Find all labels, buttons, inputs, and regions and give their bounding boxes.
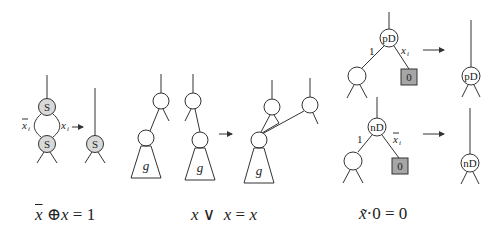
node [185,93,201,109]
s-node-result-label: S [92,138,98,150]
s-node-bottom-label: S [44,138,50,150]
node [138,130,154,146]
formula-xor: x ⊕x = 1 [35,204,95,225]
child-edge [473,172,479,184]
sub-i: i [399,139,401,147]
label-xi: x [60,119,66,131]
child-edge [474,85,480,97]
formula-and: x̃·0 = 0 [359,204,407,224]
child-edge [356,170,363,183]
nd-node-label: nD [370,121,384,133]
subgraph-label: g [143,158,150,173]
node [251,132,267,148]
node [264,99,280,115]
formula-x: x [61,205,69,224]
sub-i: i [28,125,30,133]
edge [150,109,159,131]
edge [185,109,191,121]
child-edge [98,152,105,163]
edge [274,115,279,123]
child-edge [343,170,350,183]
panel-merge: g g g [131,74,318,183]
edge-negated-xi [34,114,41,137]
terminal-zero-label: 0 [397,160,403,172]
node [302,97,318,113]
edge-label-xi: x [400,44,406,56]
child-edge [462,85,468,97]
panel-nd: nD 1 x i 0 nD [343,97,479,184]
sub-i: i [67,125,69,133]
nd-node-result-label: nD [463,157,477,169]
formula-rhs: 0 = 0 [372,204,407,223]
formula-op: ∨ [203,205,215,224]
formula-x: x [191,205,199,224]
edge-xi [53,114,60,137]
node [348,67,366,85]
edge-label-1: 1 [369,45,375,57]
edge [163,109,169,121]
formula-rhs: x [249,205,257,224]
pd-node-label: pD [382,32,396,44]
formula-rhs: = 1 [73,205,95,224]
node [344,152,362,170]
terminal-zero-label: 0 [406,71,412,83]
panel-s-reduction: S S x i x i S [21,75,105,163]
node [192,132,208,148]
child-edge [347,85,354,98]
subgraph-label: g [197,160,204,175]
child-edge [50,152,57,163]
child-edge [37,152,44,163]
formula-x: x [224,205,232,224]
sub-i: i [407,50,409,58]
pd-node-result-label: pD [464,70,478,82]
child-edge [360,85,367,98]
formula-x-tilde: x̃ [359,204,367,223]
s-node-top-label: S [44,101,50,113]
node [153,93,169,109]
formula-or: x ∨ x = x [191,204,257,225]
child-edge [461,172,467,184]
edge-label-neg-xi: x [392,133,398,145]
formula-x-negated: x [35,205,43,224]
panel-pd: pD 1 x i 0 pD [347,12,480,98]
subgraph-label: g [256,163,263,178]
edge [313,113,318,124]
edge-label-1: 1 [357,133,363,145]
child-edge [85,152,92,163]
edge [195,109,200,132]
formula-eq: = [236,205,246,224]
formula-op: ⊕ [47,205,61,224]
label-neg-xi: x [21,119,27,131]
